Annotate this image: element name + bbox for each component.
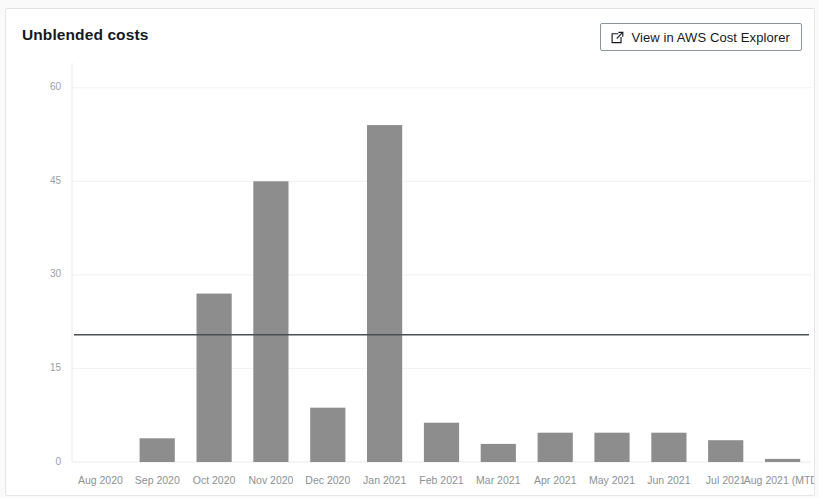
bar[interactable]: [140, 438, 175, 462]
y-axis-tick-label: 30: [50, 268, 62, 279]
x-axis-tick-label: Jan 2021: [363, 474, 406, 486]
y-axis-tick-label: 45: [50, 175, 62, 186]
x-axis-tick-label: Dec 2020: [305, 474, 350, 486]
cost-explorer-widget: Unblended costs View in AWS Cost Explore…: [0, 0, 819, 498]
bar[interactable]: [708, 440, 743, 462]
x-axis-tick-label: Jul 2021: [706, 474, 746, 486]
bar[interactable]: [253, 181, 288, 462]
y-axis-tick-label: 60: [50, 81, 62, 92]
bar-chart-svg: 015304560Aug 2020Sep 2020Oct 2020Nov 202…: [6, 9, 815, 496]
bar[interactable]: [424, 423, 459, 462]
bar[interactable]: [197, 294, 232, 462]
bar-chart-plot-area: 015304560Aug 2020Sep 2020Oct 2020Nov 202…: [6, 9, 815, 496]
bar[interactable]: [594, 433, 629, 462]
x-axis-tick-label: Aug 2020: [78, 474, 123, 486]
x-axis-tick-label: Sep 2020: [135, 474, 180, 486]
x-axis-tick-label: May 2021: [589, 474, 635, 486]
x-axis-tick-label: Aug 2021 (MTD): [744, 474, 815, 486]
x-axis-tick-label: Jun 2021: [647, 474, 690, 486]
y-axis-tick-label: 15: [50, 362, 62, 373]
bar[interactable]: [651, 433, 686, 462]
x-axis-tick-label: Mar 2021: [476, 474, 521, 486]
bar[interactable]: [310, 408, 345, 462]
x-axis-tick-label: Nov 2020: [249, 474, 294, 486]
x-axis-tick-label: Oct 2020: [193, 474, 236, 486]
bar[interactable]: [367, 125, 402, 462]
bar[interactable]: [481, 444, 516, 462]
bar[interactable]: [538, 433, 573, 462]
unblended-costs-card: Unblended costs View in AWS Cost Explore…: [5, 8, 815, 496]
x-axis-tick-label: Feb 2021: [419, 474, 464, 486]
x-axis-tick-label: Apr 2021: [534, 474, 577, 486]
bar[interactable]: [765, 459, 800, 462]
y-axis-tick-label: 0: [55, 456, 61, 467]
